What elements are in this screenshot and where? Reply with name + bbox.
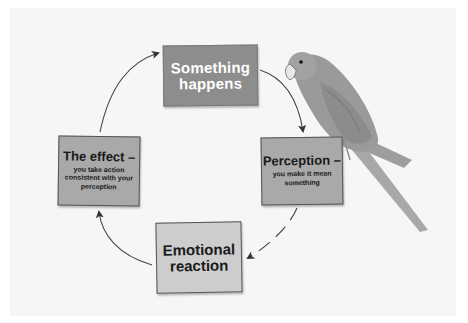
node-something-happens: Something happens xyxy=(163,45,259,107)
node-the-effect: The effect – you take action consistent … xyxy=(58,135,141,206)
arrow-effect-to-something xyxy=(100,53,158,132)
arrow-emotional-to-effect xyxy=(99,212,152,265)
node-subtitle: you make it mean something xyxy=(273,170,332,188)
node-subtitle: you take action consistent with your per… xyxy=(65,165,133,192)
node-title: happens xyxy=(179,75,242,91)
node-title: The effect – xyxy=(63,150,135,165)
subtitle-line: perception xyxy=(65,183,133,193)
subtitle-line: you make it mean xyxy=(273,170,332,180)
node-emotional-reaction: Emotional reaction xyxy=(155,221,242,293)
node-title: Something xyxy=(171,59,250,76)
node-title: reaction xyxy=(170,257,229,274)
node-title: Perception – xyxy=(263,154,341,169)
node-perception: Perception – you make it mean something xyxy=(261,136,344,205)
arrow-perception-to-emotional xyxy=(248,208,297,258)
subtitle-line: something xyxy=(273,178,332,188)
